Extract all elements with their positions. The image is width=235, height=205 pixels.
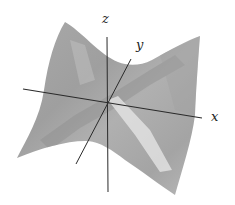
y-axis-label: y — [136, 38, 143, 51]
saddle-surface-plot — [0, 0, 235, 205]
saddle-surface-figure: z y x — [0, 0, 235, 205]
x-axis-label: x — [211, 110, 218, 123]
z-axis-label: z — [102, 12, 109, 25]
